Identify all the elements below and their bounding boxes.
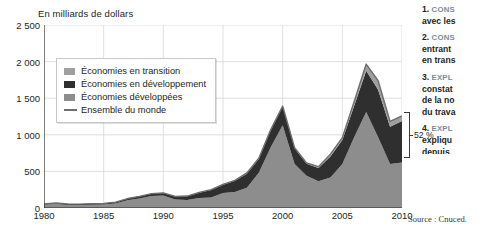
legend-item: Économies développées <box>64 91 206 103</box>
legend-item-label: Ensemble du monde <box>81 105 166 115</box>
x-tick-label: 1980 <box>33 210 54 221</box>
y-axis-labels: 05001 0001 5002 0002 500 <box>0 25 40 208</box>
side-note-heading: 2. CONS <box>422 32 497 44</box>
x-tick-label: 2005 <box>332 210 353 221</box>
side-notes-column: 1. CONSavec les2. CONSentranten trans3. … <box>422 4 497 154</box>
side-note: 3. EXPLconstatde la nodu trava <box>422 72 497 118</box>
legend-swatch-icon <box>64 81 75 88</box>
side-note-body: du trava <box>422 107 497 119</box>
side-note-body: en trans <box>422 55 497 67</box>
side-note-body: de la no <box>422 95 497 107</box>
side-note: 4. EXPLexpliqudepuis <box>422 123 497 154</box>
side-note-body: constat <box>422 84 497 96</box>
y-tick-label: 2 000 <box>16 56 40 67</box>
legend-item-label: Économies en transition <box>81 66 180 76</box>
legend-item: Économies en transition <box>64 65 206 77</box>
chart-title: En milliards de dollars <box>38 8 133 19</box>
legend-item: Économies en développement <box>64 78 206 90</box>
legend-item-label: Économies développées <box>81 92 182 102</box>
legend-swatch-icon <box>64 94 75 101</box>
chart-area: En milliards de dollars 05001 0001 5002 … <box>0 0 415 241</box>
side-note-body: expliqu <box>422 135 497 147</box>
figure-root: En milliards de dollars 05001 0001 5002 … <box>0 0 497 241</box>
x-tick-label: 2000 <box>272 210 293 221</box>
legend-swatch-icon <box>64 68 75 75</box>
x-tick-label: 1985 <box>93 210 114 221</box>
x-axis-labels: 1980198519901995200020052010 <box>44 210 402 226</box>
y-tick-label: 1 000 <box>16 129 40 140</box>
x-tick-label: 1995 <box>212 210 233 221</box>
bracket-tick <box>410 135 413 136</box>
side-note-body: avec les <box>422 16 497 28</box>
side-note-heading: 4. EXPL <box>422 123 497 135</box>
side-note: 2. CONSentranten trans <box>422 32 497 67</box>
side-note-body: entrant <box>422 44 497 56</box>
side-note-heading: 1. CONS <box>422 4 497 16</box>
source-note: Source : Cnuced. <box>408 214 467 224</box>
x-tick-label: 1990 <box>153 210 174 221</box>
legend-item-label: Économies en développement <box>81 79 206 89</box>
y-tick-label: 1 500 <box>16 93 40 104</box>
legend-line-icon <box>64 109 77 111</box>
side-note-heading: 3. EXPL <box>422 72 497 84</box>
chart-legend: Économies en transitionÉconomies en déve… <box>56 58 216 123</box>
y-tick-label: 2 500 <box>16 20 40 31</box>
y-tick-label: 500 <box>24 166 40 177</box>
side-note: 1. CONSavec les <box>422 4 497 27</box>
side-note-body: depuis <box>422 147 497 154</box>
legend-item: Ensemble du monde <box>64 104 206 116</box>
